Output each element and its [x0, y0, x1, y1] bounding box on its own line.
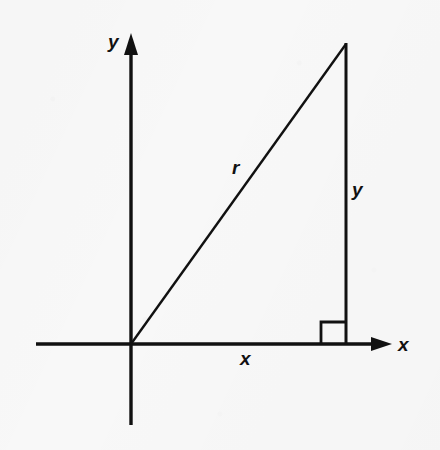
- triangle-diagram-svg: [0, 0, 440, 450]
- hypotenuse-label-r: r: [232, 158, 239, 177]
- hypotenuse-line: [131, 44, 346, 344]
- y-axis-label: y: [108, 32, 119, 51]
- geometry-figure: y x r y x: [0, 0, 440, 450]
- vertical-leg-label-y: y: [352, 180, 363, 199]
- right-angle-marker-icon: [321, 322, 345, 344]
- x-axis-label: x: [398, 335, 409, 354]
- y-axis-arrowhead-icon: [124, 33, 138, 55]
- horizontal-leg-label-x: x: [240, 349, 251, 368]
- x-axis-arrowhead-icon: [371, 337, 392, 351]
